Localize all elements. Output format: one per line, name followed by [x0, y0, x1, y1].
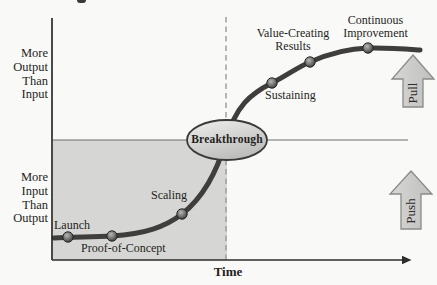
proof-of-concept-dot: [107, 231, 117, 241]
y-lower-line: More: [6, 171, 48, 185]
scaling-label: Scaling: [151, 189, 187, 202]
launch-dot: [63, 232, 73, 242]
push-arrow-label: Push: [403, 189, 419, 233]
sustaining-dot: [267, 78, 277, 88]
continuous-improvement-dot: [363, 43, 373, 53]
y-axis-upper-label: More Output Than Input: [6, 47, 48, 102]
y-axis-lower-label: More Input Than Output: [6, 171, 48, 226]
y-lower-line: Output: [6, 212, 48, 226]
launch-label: Launch: [54, 219, 90, 232]
y-upper-line: Than: [6, 75, 48, 89]
value-creating-dot: [305, 57, 315, 67]
y-upper-line: Input: [6, 88, 48, 102]
y-lower-line: Input: [6, 185, 48, 199]
sustaining-label: Sustaining: [265, 89, 316, 102]
pull-arrow-label: Pull: [405, 71, 421, 115]
x-axis-time-label: Time: [204, 264, 252, 280]
x-axis-arrowhead-icon: [402, 256, 412, 264]
proof-of-concept-label: Proof-of-Concept: [81, 242, 166, 255]
value-creating-results-label: Value-Creating Results: [248, 27, 338, 53]
continuous-improvement-label: Continuous Improvement: [328, 14, 423, 40]
breakthrough-label: Breakthrough: [186, 133, 268, 145]
y-lower-line: Than: [6, 199, 48, 213]
y-upper-line: Output: [6, 61, 48, 75]
scaling-dot: [177, 209, 187, 219]
s-curve-diagram: More Output Than Input More Input Than O…: [0, 0, 437, 285]
y-upper-line: More: [6, 47, 48, 61]
continuous-line2: Improvement: [328, 27, 423, 40]
value-creating-line2: Results: [248, 40, 338, 53]
